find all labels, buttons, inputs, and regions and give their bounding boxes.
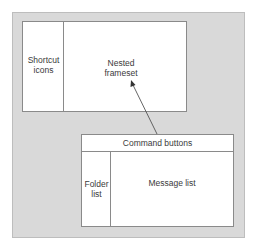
command-buttons-label: Command buttons [82, 138, 233, 148]
message-list-label: Message list [111, 178, 233, 188]
nested-frameset: Command buttons Folder list Message list [81, 134, 234, 227]
nested-frameset-label: Nested frameset [91, 58, 151, 78]
shortcut-icons-label: Shortcut icons [23, 55, 64, 75]
top-frameset: Shortcut icons Nested frameset [22, 21, 187, 112]
folder-list-frame: Folder list [82, 152, 111, 226]
command-buttons-frame: Command buttons [82, 135, 233, 152]
folder-list-label: Folder list [82, 179, 111, 199]
